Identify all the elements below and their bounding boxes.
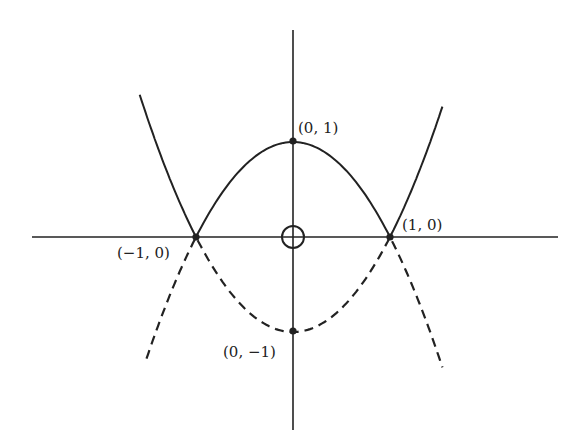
dashed-curve xyxy=(147,237,443,367)
point-bottom xyxy=(289,327,296,334)
solid-curve xyxy=(140,95,443,237)
label-bottom: (0, −1) xyxy=(223,343,276,361)
parabola-diagram: (0, 1) (−1, 0) (1, 0) (0, −1) xyxy=(0,0,582,438)
label-right: (1, 0) xyxy=(402,216,442,234)
point-left xyxy=(192,233,199,240)
point-top xyxy=(289,137,296,144)
label-left: (−1, 0) xyxy=(117,244,170,262)
label-top: (0, 1) xyxy=(298,119,338,137)
point-right xyxy=(386,233,393,240)
